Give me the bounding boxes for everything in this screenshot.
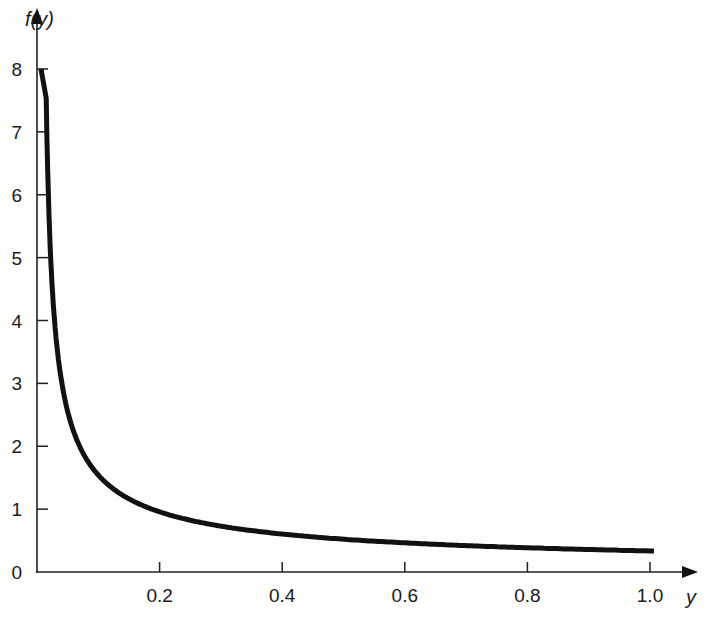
y-tick-label: 6	[11, 185, 22, 206]
x-tick-label: 0.2	[146, 585, 172, 606]
y-tick-label: 4	[11, 311, 22, 332]
y-axis-title: f(y)	[25, 8, 54, 30]
x-axis-arrow-icon	[682, 566, 698, 578]
density-curve	[41, 69, 654, 551]
x-axis	[36, 566, 698, 578]
x-tick-label: 0.4	[269, 585, 296, 606]
y-ticks: 012345678	[11, 59, 48, 583]
x-axis-title: y	[684, 586, 697, 608]
x-tick-label: 1.0	[637, 585, 663, 606]
y-axis	[31, 8, 43, 573]
x-tick-label: 0.6	[392, 585, 418, 606]
y-tick-label: 3	[11, 373, 22, 394]
y-tick-label: 1	[11, 499, 22, 520]
x-tick-label: 0.8	[514, 585, 540, 606]
y-tick-label: 5	[11, 248, 22, 269]
x-ticks: 0.20.40.60.81.0	[146, 562, 663, 606]
y-tick-label: 2	[11, 436, 22, 457]
chart: 012345678 0.20.40.60.81.0 f(y) y	[0, 0, 714, 619]
y-tick-label: 8	[11, 59, 22, 80]
y-tick-label: 7	[11, 122, 22, 143]
y-tick-label: 0	[11, 562, 22, 583]
